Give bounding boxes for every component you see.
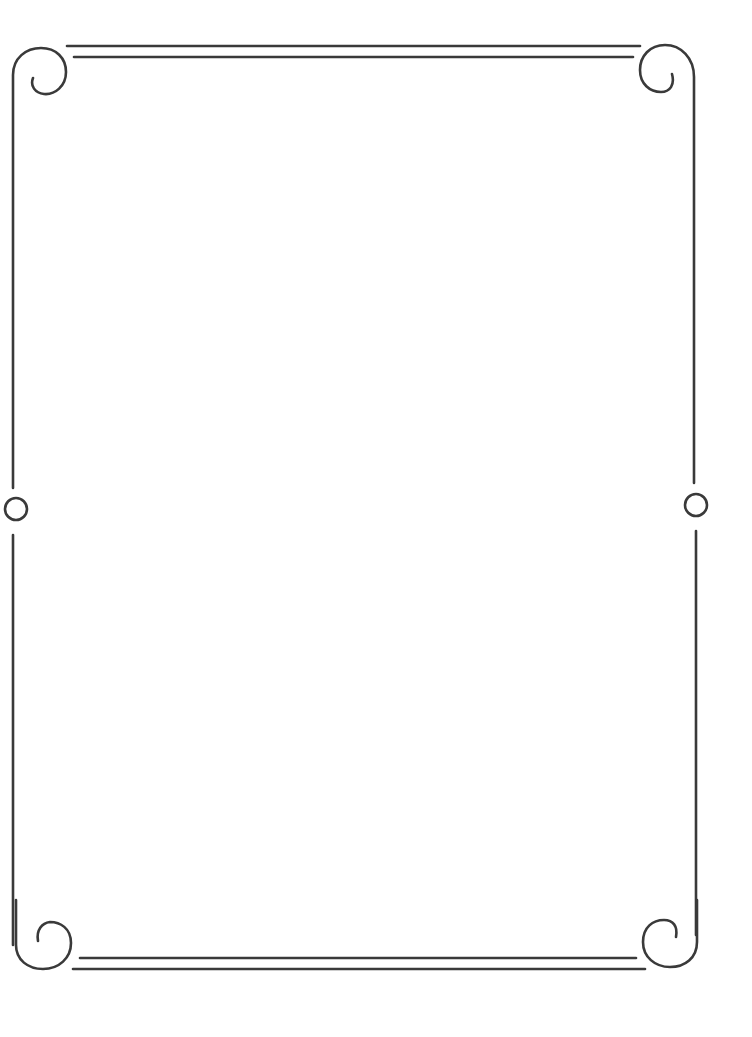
top-double-rule (67, 46, 640, 57)
bottom-left-scroll-icon (16, 900, 71, 969)
top-right-scroll-icon (640, 45, 694, 483)
page-border (0, 0, 752, 1037)
bottom-right-scroll-icon (643, 900, 697, 967)
left-circle-ornament (5, 498, 27, 945)
top-left-scroll-icon (13, 48, 66, 488)
bottom-double-rule (73, 958, 645, 969)
right-circle-ornament (685, 494, 707, 935)
